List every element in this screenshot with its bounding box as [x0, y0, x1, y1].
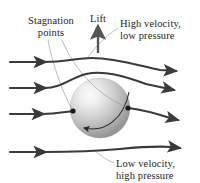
- label-high-velocity-line1: High velocity,: [120, 18, 181, 30]
- streamline-3-approach: [42, 111, 73, 114]
- label-stagnation-line2: points: [18, 27, 84, 39]
- leader-low-velocity: [94, 150, 114, 163]
- stagnation-point-left: [70, 108, 75, 113]
- stagnation-point-right: [125, 105, 130, 110]
- label-stagnation-points: Stagnation points: [18, 15, 84, 38]
- spinning-ball: [70, 78, 130, 138]
- magnus-effect-diagram: Stagnation points Lift High velocity, lo…: [0, 0, 200, 183]
- label-low-velocity-line2: high pressure: [116, 170, 175, 182]
- streamline-4-body: [44, 147, 180, 152]
- streamline-3-exit: [128, 108, 178, 120]
- label-stagnation-line1: Stagnation: [18, 15, 84, 27]
- leader-high-velocity: [88, 28, 118, 57]
- label-low-velocity: Low velocity, high pressure: [116, 158, 175, 181]
- label-high-velocity: High velocity, low pressure: [120, 18, 181, 41]
- label-low-velocity-line1: Low velocity,: [116, 158, 175, 170]
- leader-stagnation-left: [48, 40, 73, 111]
- streamline-1-body: [44, 58, 176, 71]
- label-high-velocity-line2: low pressure: [120, 30, 181, 42]
- label-lift: Lift: [85, 13, 111, 25]
